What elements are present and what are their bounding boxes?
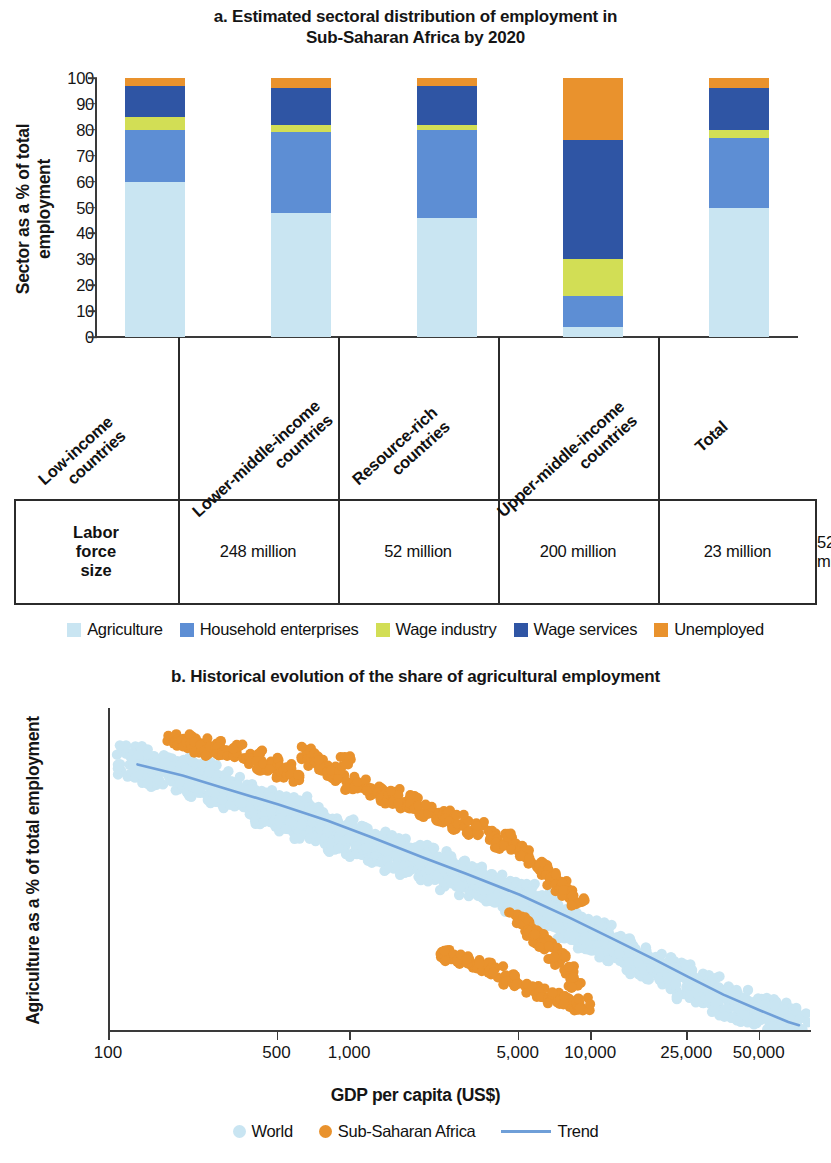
scatter-point [691, 983, 701, 993]
panel-a-y-tick-mark-40 [88, 233, 97, 235]
scatter-point [567, 901, 577, 911]
bar-segment [417, 218, 477, 337]
labor-force-size-value: 23 million [658, 499, 817, 604]
scatter-point [184, 791, 194, 801]
panel-b-plot-area: 0246810 [110, 708, 810, 1030]
scatter-point [341, 759, 351, 769]
legend-item: Sub-Saharan Africa [319, 1122, 476, 1141]
panel-b-x-tick-mark-50000 [759, 1030, 761, 1040]
scatter-point [567, 982, 577, 992]
legend-label: Trend [557, 1122, 598, 1141]
scatter-point [259, 816, 269, 826]
panel-a-y-tick-mark-10 [88, 310, 97, 312]
scatter-point [488, 968, 498, 978]
bar-segment [417, 78, 477, 86]
bar-segment [125, 117, 185, 130]
scatter-point [143, 779, 153, 789]
panel-b-x-tick-label-50000: 50,000 [733, 1043, 785, 1063]
scatter-point [672, 992, 682, 1002]
panel-b-x-axis-label: GDP per capita (US$) [0, 1085, 831, 1106]
table-column-divider [498, 337, 500, 499]
legend-swatch [180, 623, 194, 637]
bar-segment [563, 140, 623, 259]
scatter-point [217, 794, 227, 804]
table-column-divider [658, 337, 660, 499]
labor-force-header-line: Labor [73, 523, 119, 542]
scatter-point [544, 942, 554, 952]
panel-a-y-tick-mark-20 [88, 284, 97, 286]
bar-column [125, 78, 185, 337]
panel-a-legend: AgricultureHousehold enterprisesWage ind… [0, 620, 831, 639]
scatter-point [585, 999, 595, 1009]
panel-b-x-tick-label-10000: 10,000 [564, 1043, 616, 1063]
scatter-point [575, 1003, 585, 1013]
scatter-point [293, 770, 303, 780]
bar-segment [271, 78, 331, 88]
panel-a-y-tick-mark-60 [88, 181, 97, 183]
scatter-point [380, 799, 390, 809]
panel-b-x-tick-label-1000: 1,000 [328, 1043, 371, 1063]
scatter-point [296, 819, 306, 829]
scatter-point [405, 790, 415, 800]
legend-label: Unemployed [674, 620, 764, 639]
scatter-point [794, 1014, 804, 1024]
scatter-point [471, 821, 481, 831]
labor-force-size-header: Laborforcesize [14, 499, 178, 604]
legend-item: Household enterprises [180, 620, 359, 639]
legend-swatch [67, 623, 81, 637]
table-column-divider [178, 337, 180, 499]
scatter-point [112, 749, 122, 759]
bar-segment [417, 125, 477, 130]
scatter-point [204, 767, 214, 777]
panel-a-y-tick-mark-70 [88, 155, 97, 157]
scatter-point [512, 979, 522, 989]
scatter-point [377, 843, 387, 853]
scatter-point [386, 786, 396, 796]
legend-dot-marker [319, 1125, 332, 1138]
bar-segment [271, 125, 331, 133]
bar-column [417, 78, 477, 337]
legend-label: Sub-Saharan Africa [338, 1122, 476, 1141]
scatter-point [752, 1018, 762, 1028]
scatter-point [439, 946, 449, 956]
legend-label: Wage industry [396, 620, 497, 639]
legend-line-marker [501, 1130, 551, 1133]
scatter-point [154, 775, 164, 785]
bar-segment [709, 78, 769, 88]
panel-a-title-line2: Sub-Saharan Africa by 2020 [60, 27, 771, 48]
panel-b-x-axis-line: 1005001,0005,00010,00025,00050,000 [108, 1030, 811, 1032]
panel-a-category-table: Low-incomecountriesLower-middle-incomeco… [14, 337, 817, 604]
legend-swatch [514, 623, 528, 637]
scatter-point [510, 971, 520, 981]
scatter-point [362, 786, 372, 796]
scatter-point [297, 742, 307, 752]
panel-a-y-tick-mark-30 [88, 259, 97, 261]
scatter-point [594, 947, 604, 957]
panel-a-plot-area: 0102030405060708090100 [97, 78, 797, 337]
panel-b-historical-evolution: b. Historical evolution of the share of … [0, 660, 831, 1163]
bar-segment [125, 78, 185, 86]
scatter-point [547, 987, 557, 997]
legend-item: Trend [501, 1122, 598, 1141]
scatter-point [498, 961, 508, 971]
bar-segment [271, 132, 331, 212]
scatter-point [462, 954, 472, 964]
scatter-point [474, 958, 484, 968]
scatter-point [526, 886, 536, 896]
legend-item: Wage services [514, 620, 638, 639]
scatter-point [604, 956, 614, 966]
category-label: Resource-richcountries [349, 403, 454, 503]
bar-segment [709, 88, 769, 129]
bar-segment [271, 88, 331, 124]
scatter-point [530, 929, 540, 939]
category-label: Total [691, 417, 731, 456]
bar-column [563, 78, 623, 337]
scatter-point [549, 952, 559, 962]
legend-dot-marker [233, 1125, 246, 1138]
scatter-point [440, 956, 450, 966]
labor-force-size-value: 200 million [498, 499, 658, 604]
scatter-point [779, 1004, 789, 1014]
scatter-point [236, 797, 246, 807]
scatter-point [614, 948, 624, 958]
scatter-point [574, 994, 584, 1004]
